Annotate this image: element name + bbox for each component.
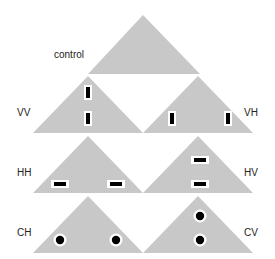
panel-cv <box>143 196 253 253</box>
stimulus-diagram: control VV VH HH HV CH CV <box>0 0 275 259</box>
label-control: control <box>54 50 84 60</box>
triangle-hh <box>33 136 143 193</box>
vertical-bar-marker <box>84 111 92 126</box>
horizontal-bar-marker <box>191 180 209 188</box>
panel-vv <box>33 76 143 133</box>
label-ch: CH <box>17 228 31 238</box>
label-cv: CV <box>244 228 258 238</box>
triangle-control <box>88 15 200 74</box>
panel-vh <box>143 76 253 133</box>
panel-ch <box>33 196 143 253</box>
circle-marker <box>110 234 123 247</box>
panel-hv <box>143 136 253 193</box>
triangle-vh <box>143 76 253 133</box>
label-hh: HH <box>17 168 31 178</box>
panel-control <box>88 15 200 74</box>
vertical-bar-marker <box>224 111 232 126</box>
vertical-bar-marker <box>84 85 92 100</box>
triangle-ch <box>33 196 143 253</box>
circle-marker <box>194 210 207 223</box>
diagram-canvas <box>0 0 275 259</box>
vertical-bar-marker <box>168 111 176 126</box>
label-vh: VH <box>244 108 258 118</box>
horizontal-bar-marker <box>191 156 209 164</box>
panel-hh <box>33 136 143 193</box>
circle-marker <box>54 234 67 247</box>
horizontal-bar-marker <box>107 180 125 188</box>
label-vv: VV <box>17 108 30 118</box>
horizontal-bar-marker <box>51 180 69 188</box>
circle-marker <box>194 234 207 247</box>
label-hv: HV <box>244 168 258 178</box>
